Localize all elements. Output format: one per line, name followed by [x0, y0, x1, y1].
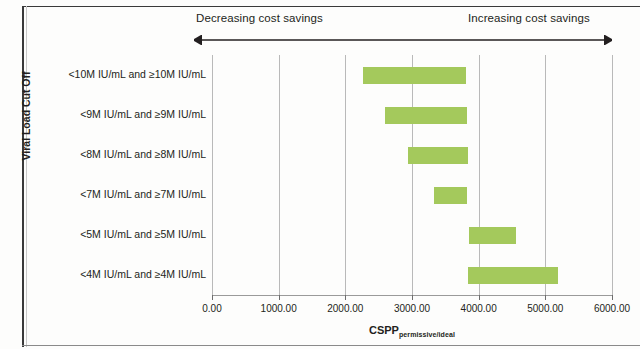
x-axis-tick-label: 5000.00 — [527, 303, 563, 314]
x-axis-tick-label: 1000.00 — [261, 303, 297, 314]
bar — [385, 107, 468, 124]
x-axis-title-main: CSPP — [369, 324, 399, 336]
bar — [408, 147, 469, 164]
x-axis-title-subscript: permissive/ideal — [399, 331, 455, 338]
bar-row — [212, 215, 612, 255]
bar — [469, 227, 515, 244]
gridline-6000.00 — [612, 55, 613, 295]
y-axis-tick-label: <4M IU/mL and ≥4M IU/mL — [80, 268, 206, 280]
bar-row — [212, 95, 612, 135]
y-axis-tick-label: <5M IU/mL and ≥5M IU/mL — [80, 228, 206, 240]
x-axis-tick-label: 6000.00 — [594, 303, 630, 314]
y-axis-tick-label: <7M IU/mL and ≥7M IU/mL — [80, 188, 206, 200]
x-axis-tickmark — [479, 295, 480, 300]
x-axis-title: CSPPpermissive/ideal — [212, 324, 612, 338]
bar-row — [212, 255, 612, 295]
x-axis-tick-label: 0.00 — [202, 303, 221, 314]
x-axis-tick-label: 4000.00 — [461, 303, 497, 314]
x-axis-tick-label: 2000.00 — [327, 303, 363, 314]
scan-border-bottom — [22, 345, 640, 346]
bar-row — [212, 55, 612, 95]
y-axis-tick-labels: <10M IU/mL and ≥10M IU/mL<9M IU/mL and ≥… — [20, 55, 206, 295]
x-axis-tickmark — [412, 295, 413, 300]
x-axis-tickmark — [279, 295, 280, 300]
y-axis-tick-label: <10M IU/mL and ≥10M IU/mL — [68, 68, 206, 80]
bar — [434, 187, 467, 204]
plot-area — [212, 55, 612, 295]
double-headed-arrow-icon — [194, 35, 612, 45]
bar-row — [212, 175, 612, 215]
y-axis-tick-label: <8M IU/mL and ≥8M IU/mL — [80, 148, 206, 160]
bar-row — [212, 135, 612, 175]
x-axis-tick-label: 3000.00 — [394, 303, 430, 314]
y-axis-tick-label: <9M IU/mL and ≥9M IU/mL — [80, 108, 206, 120]
x-axis-tickmark — [545, 295, 546, 300]
x-axis-tickmark — [612, 295, 613, 300]
scan-border-top — [22, 6, 640, 7]
x-axis-tickmark — [345, 295, 346, 300]
x-axis-tickmark — [212, 295, 213, 300]
figure-container: Decreasing cost savings Increasing cost … — [0, 0, 640, 349]
decreasing-cost-savings-label: Decreasing cost savings — [196, 12, 323, 24]
increasing-cost-savings-label: Increasing cost savings — [468, 12, 590, 24]
x-axis-tick-labels: 0.001000.002000.003000.004000.005000.006… — [212, 303, 612, 319]
bar — [363, 67, 466, 84]
bar — [468, 267, 558, 284]
